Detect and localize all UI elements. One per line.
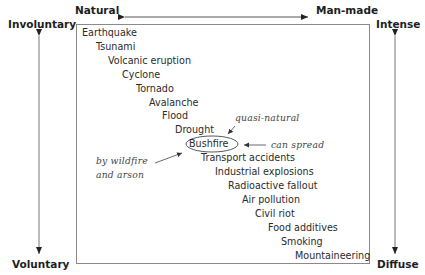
annotation-and-arson: and arson [96, 169, 144, 180]
annotation-by-wildfire: by wildfire [96, 155, 148, 166]
hazard-bushfire: Bushfire [189, 139, 228, 149]
hazard-mountaineering: Mountaineering [295, 251, 370, 261]
quasi-natural-arrow-icon [228, 126, 235, 134]
hazard-volcanic-eruption: Volcanic eruption [108, 56, 191, 66]
hazard-air-pollution: Air pollution [242, 195, 300, 205]
wildfire-arrow-icon [155, 153, 182, 163]
hazard-radioactive-fallout: Radioactive fallout [228, 181, 317, 191]
hazard-industrial-explosions: Industrial explosions [215, 167, 314, 177]
hazard-earthquake: Earthquake [82, 28, 137, 38]
hazard-tsunami: Tsunami [96, 42, 135, 52]
hazard-food-additives: Food additives [268, 223, 338, 233]
hazard-civil-riot: Civil riot [255, 209, 295, 219]
annotation-can-spread: can spread [271, 139, 324, 150]
hazard-smoking: Smoking [281, 237, 323, 247]
hazard-tornado: Tornado [136, 84, 174, 94]
hazard-drought: Drought [175, 125, 214, 135]
hazard-flood: Flood [162, 111, 188, 121]
hazard-avalanche: Avalanche [149, 98, 198, 108]
hazard-cyclone: Cyclone [122, 70, 160, 80]
hazard-transport-accidents: Transport accidents [201, 153, 295, 163]
annotation-quasi-natural: quasi-natural [235, 112, 299, 123]
